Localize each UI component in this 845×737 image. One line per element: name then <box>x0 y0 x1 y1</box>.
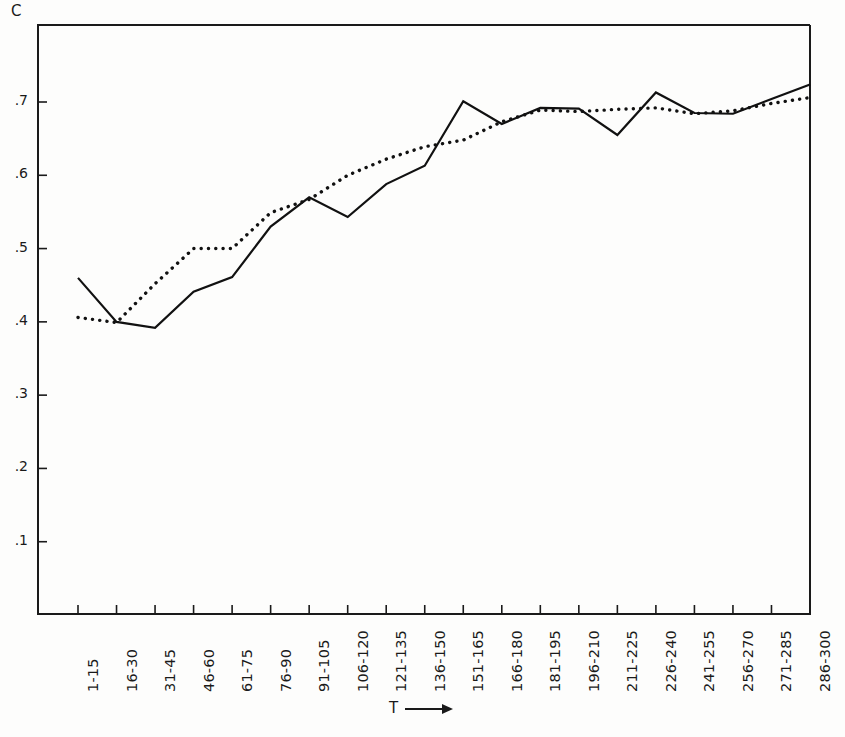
x-tick-label: 166-180 <box>509 630 525 692</box>
y-tick-label: .7 <box>0 92 28 108</box>
x-tick-label: 76-90 <box>278 649 294 692</box>
x-axis-title: T <box>389 699 451 717</box>
y-tick-label: .2 <box>0 458 28 474</box>
y-tick-label: .1 <box>0 532 28 548</box>
x-tick-label: 211-225 <box>624 630 640 692</box>
x-axis-arrow-icon <box>405 708 451 710</box>
x-tick-label: 226-240 <box>663 630 679 692</box>
y-tick-label: .3 <box>0 385 28 401</box>
x-tick-label: 106-120 <box>355 630 371 692</box>
x-tick-label: 151-165 <box>470 630 486 692</box>
x-tick-label: 271-285 <box>778 630 794 692</box>
x-tick-label: 136-150 <box>432 630 448 692</box>
x-tick-label: 46-60 <box>201 649 217 692</box>
y-tick-label: .5 <box>0 239 28 255</box>
x-tick-label: 121-135 <box>393 630 409 692</box>
plot-area <box>0 0 845 737</box>
x-tick-label: 286-300 <box>817 630 833 692</box>
data-series-layer <box>78 84 810 327</box>
x-tick-label: 181-195 <box>547 630 563 692</box>
x-tick-label: 241-255 <box>701 630 717 692</box>
chart-container: C .1.2.3.4.5.6.7 1-1516-3031-4546-6061-7… <box>0 0 845 737</box>
x-axis-title-text: T <box>389 699 399 717</box>
x-tick-label: 91-105 <box>316 639 332 692</box>
y-axis-ticks <box>38 102 47 542</box>
series-line-solid <box>78 84 810 327</box>
x-tick-label: 196-210 <box>586 630 602 692</box>
x-tick-label: 31-45 <box>162 649 178 692</box>
y-tick-label: .4 <box>0 312 28 328</box>
y-tick-label: .6 <box>0 165 28 181</box>
x-tick-label: 16-30 <box>124 649 140 692</box>
x-tick-label: 1-15 <box>85 658 101 692</box>
x-axis-ticks <box>78 605 771 614</box>
series-line-dotted <box>78 98 810 323</box>
x-tick-label: 256-270 <box>740 630 756 692</box>
x-tick-label: 61-75 <box>239 649 255 692</box>
